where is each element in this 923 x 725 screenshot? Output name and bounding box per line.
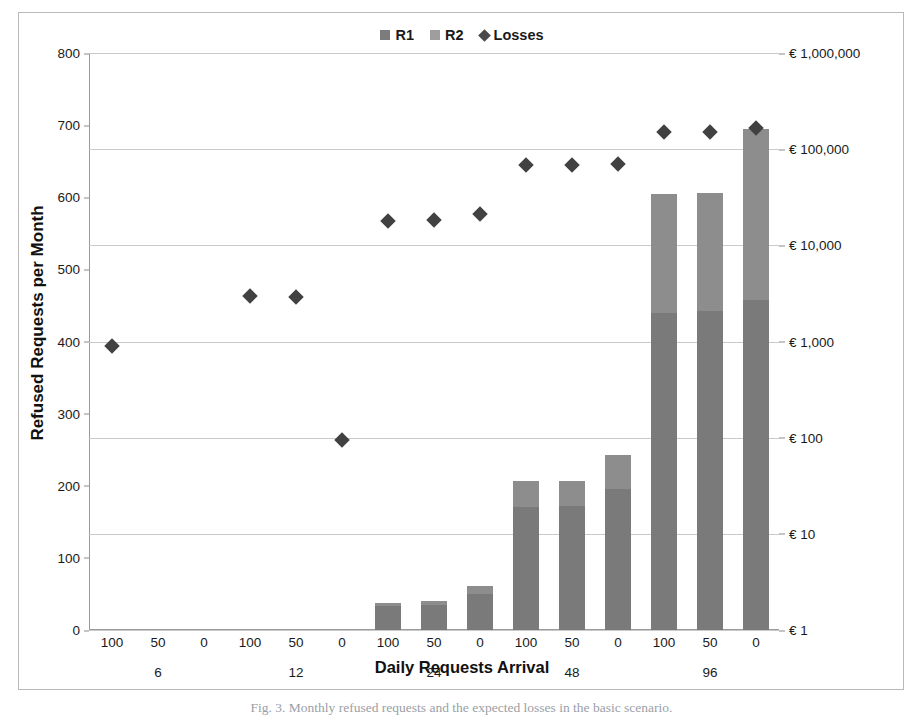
bar-segment-r2: [697, 193, 723, 311]
bar-segment-r2: [651, 194, 677, 313]
losses-marker[interactable]: [104, 338, 120, 354]
y-axis-left-tick-label: 0: [27, 623, 89, 638]
figure: R1 R2 Losses Refused Requests per Month …: [0, 0, 923, 725]
figure-caption: Fig. 3. Monthly refused requests and the…: [0, 700, 923, 716]
y-axis-right-tick-label: € 100,000: [779, 142, 869, 157]
bar-segment-r2: [513, 481, 539, 507]
y-axis-right-tick-label: € 1,000,000: [779, 46, 869, 61]
chart-legend: R1 R2 Losses: [19, 27, 905, 43]
losses-marker[interactable]: [518, 158, 534, 174]
bar-segment-r2: [467, 586, 493, 594]
legend-label-r1: R1: [395, 27, 414, 43]
legend-item-r2[interactable]: R2: [430, 27, 464, 43]
x-axis-tick-labels: 100500100500100500100500100500: [89, 635, 779, 659]
legend-label-losses: Losses: [494, 27, 544, 43]
x-axis-tick-label: 50: [288, 635, 303, 650]
losses-marker[interactable]: [426, 212, 442, 228]
x-axis-tick-label: 50: [426, 635, 441, 650]
losses-marker[interactable]: [242, 288, 258, 304]
bar-stack[interactable]: [605, 455, 631, 630]
y-axis-left-tick-label: 700: [27, 118, 89, 133]
legend-swatch-r1-icon: [380, 30, 390, 40]
losses-marker[interactable]: [702, 124, 718, 140]
legend-label-r2: R2: [445, 27, 464, 43]
legend-swatch-r2-icon: [430, 30, 440, 40]
losses-marker[interactable]: [610, 156, 626, 172]
bar-segment-r1: [605, 489, 631, 630]
bar-segment-r1: [467, 594, 493, 630]
x-axis-group-label: 6: [154, 665, 162, 680]
x-axis-group-label: 96: [702, 665, 717, 680]
x-axis-tick-label: 100: [515, 635, 538, 650]
x-axis-tick-label: 0: [476, 635, 484, 650]
losses-marker[interactable]: [334, 432, 350, 448]
x-axis-tick-label: 0: [338, 635, 346, 650]
y-axis-left-tick-label: 200: [27, 478, 89, 493]
y-axis-left-tick-label: 300: [27, 406, 89, 421]
bar-segment-r2: [559, 481, 585, 506]
bar-stack[interactable]: [743, 129, 769, 630]
losses-marker[interactable]: [288, 289, 304, 305]
x-axis-tick-label: 100: [377, 635, 400, 650]
y-axis-right-tick-label: € 1,000: [779, 334, 869, 349]
y-axis-right-tick-label: € 1: [779, 623, 869, 638]
y-axis-left-tick-label: 400: [27, 334, 89, 349]
x-axis-group-label: 24: [426, 665, 441, 680]
x-axis-tick-label: 100: [653, 635, 676, 650]
x-axis-group-label: 12: [288, 665, 303, 680]
bar-segment-r1: [375, 606, 401, 630]
gridline: [89, 53, 779, 54]
bar-stack[interactable]: [375, 603, 401, 630]
legend-item-r1[interactable]: R1: [380, 27, 414, 43]
y-axis-left-tick-label: 500: [27, 262, 89, 277]
bar-segment-r1: [697, 311, 723, 631]
y-axis-right-tick-label: € 10: [779, 526, 869, 541]
bar-stack[interactable]: [513, 481, 539, 630]
losses-marker[interactable]: [380, 213, 396, 229]
x-axis-group-label: 48: [564, 665, 579, 680]
losses-marker[interactable]: [656, 124, 672, 140]
bar-segment-r2: [605, 455, 631, 489]
legend-swatch-losses-diamond-icon: [478, 29, 491, 42]
x-axis-tick-label: 0: [614, 635, 622, 650]
bar-segment-r1: [743, 300, 769, 630]
y-axis-left-tick-label: 100: [27, 550, 89, 565]
x-axis-group-labels: 612244896: [89, 665, 779, 687]
losses-marker[interactable]: [472, 207, 488, 223]
y-axis-left-tick-label: 800: [27, 46, 89, 61]
x-axis-tick-label: 100: [101, 635, 124, 650]
y-axis-right-tick-label: € 10,000: [779, 238, 869, 253]
gridline: [89, 630, 779, 631]
bar-stack[interactable]: [421, 601, 447, 630]
y-axis-left-title: Refused Requests per Month: [28, 108, 48, 538]
x-axis-tick-label: 50: [702, 635, 717, 650]
bar-segment-r1: [421, 605, 447, 630]
bar-segment-r1: [513, 507, 539, 630]
plot-area: 0100200300400500600700800 € 1€ 10€ 100€ …: [89, 53, 779, 630]
x-axis-tick-label: 0: [200, 635, 208, 650]
chart-frame: R1 R2 Losses Refused Requests per Month …: [18, 12, 904, 690]
y-axis-right-tick-label: € 100: [779, 430, 869, 445]
bar-segment-r1: [559, 506, 585, 630]
x-axis-tick-label: 50: [564, 635, 579, 650]
x-axis-tick-label: 100: [239, 635, 262, 650]
bar-segment-r1: [651, 313, 677, 630]
losses-marker[interactable]: [564, 158, 580, 174]
legend-item-losses[interactable]: Losses: [480, 27, 544, 43]
gridline: [89, 149, 779, 150]
bar-stack[interactable]: [467, 586, 493, 630]
x-axis-tick-label: 50: [150, 635, 165, 650]
bar-stack[interactable]: [559, 481, 585, 630]
bar-segment-r2: [743, 129, 769, 300]
bar-stack[interactable]: [651, 194, 677, 630]
x-axis-tick-label: 0: [752, 635, 760, 650]
y-axis-left-tick-label: 600: [27, 190, 89, 205]
bar-stack[interactable]: [697, 193, 723, 630]
